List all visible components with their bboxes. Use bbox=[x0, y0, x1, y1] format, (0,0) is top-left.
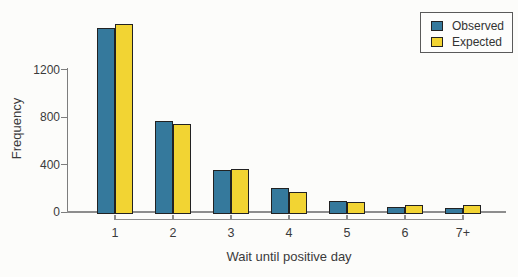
bar-observed-1 bbox=[97, 28, 115, 214]
x-tick bbox=[462, 215, 463, 220]
bar-expected-7+ bbox=[463, 205, 481, 214]
y-tick-label: 1200 bbox=[20, 62, 60, 78]
x-tick bbox=[114, 215, 115, 220]
legend: Observed Expected bbox=[420, 12, 513, 53]
legend-row-observed: Observed bbox=[431, 18, 512, 34]
y-tick bbox=[61, 164, 67, 165]
legend-row-expected: Expected bbox=[431, 34, 512, 50]
x-tick-label-1: 1 bbox=[97, 226, 133, 241]
bar-observed-6 bbox=[387, 207, 405, 214]
legend-label-expected: Expected bbox=[452, 35, 502, 49]
bar-expected-6 bbox=[405, 205, 423, 214]
x-tick bbox=[346, 215, 347, 220]
x-tick-label-6: 6 bbox=[387, 226, 423, 241]
x-tick-label-3: 3 bbox=[213, 226, 249, 241]
bar-observed-3 bbox=[213, 170, 231, 213]
bar-expected-5 bbox=[347, 202, 365, 214]
bar-chart-figure: Frequency 04008001200 1234567+ Wait unti… bbox=[0, 0, 518, 277]
x-tick bbox=[404, 215, 405, 220]
y-tick bbox=[61, 117, 67, 118]
x-tick bbox=[172, 215, 173, 220]
y-tick bbox=[61, 69, 67, 70]
bar-observed-7+ bbox=[445, 208, 463, 213]
expected-swatch bbox=[431, 37, 443, 47]
x-tick bbox=[230, 215, 231, 220]
bar-expected-2 bbox=[173, 124, 191, 214]
y-tick-label: 400 bbox=[20, 157, 60, 173]
y-tick-label: 800 bbox=[20, 109, 60, 125]
x-tick-label-4: 4 bbox=[271, 226, 307, 241]
bar-observed-4 bbox=[271, 188, 289, 213]
bar-observed-5 bbox=[329, 201, 347, 214]
legend-label-observed: Observed bbox=[452, 19, 504, 33]
bar-expected-1 bbox=[115, 24, 133, 214]
bar-expected-3 bbox=[231, 169, 249, 213]
x-tick-label-5: 5 bbox=[329, 226, 365, 241]
observed-swatch bbox=[431, 21, 443, 31]
x-tick bbox=[288, 215, 289, 220]
x-tick-label-2: 2 bbox=[155, 226, 191, 241]
x-axis-title: Wait until positive day bbox=[115, 249, 463, 264]
y-axis-line bbox=[67, 68, 68, 213]
x-tick-label-7+: 7+ bbox=[445, 226, 481, 241]
bar-observed-2 bbox=[155, 121, 173, 214]
y-tick-label: 0 bbox=[20, 204, 60, 220]
bar-expected-4 bbox=[289, 192, 307, 214]
